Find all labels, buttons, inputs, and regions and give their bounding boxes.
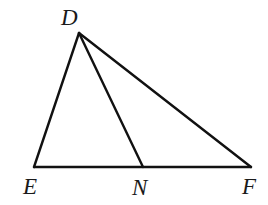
geometry-figure: D E N F — [0, 0, 268, 205]
vertex-label-N: N — [132, 176, 147, 199]
segment-edge-DE — [34, 33, 79, 167]
vertex-label-E: E — [23, 175, 37, 198]
segment-edge-DF — [79, 33, 251, 167]
vertex-label-D: D — [61, 6, 78, 29]
segment-cevian-DN — [79, 33, 143, 167]
vertex-label-F: F — [242, 175, 256, 198]
